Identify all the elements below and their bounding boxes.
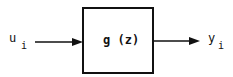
block-label: g (z) [103,34,139,46]
input-subscript: i [21,41,27,51]
output-symbol: y [208,32,215,44]
input-symbol: u [9,32,16,44]
input-arrowhead-icon [72,38,83,46]
output-subscript: i [218,41,224,51]
output-arrowhead-icon [189,37,200,45]
